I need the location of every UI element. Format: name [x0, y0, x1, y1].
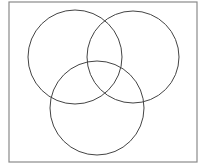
- venn-diagram: [0, 0, 200, 165]
- circle-left: [28, 10, 122, 104]
- circle-right: [87, 11, 179, 103]
- diagram-border: [9, 2, 197, 162]
- circle-bottom: [50, 61, 144, 155]
